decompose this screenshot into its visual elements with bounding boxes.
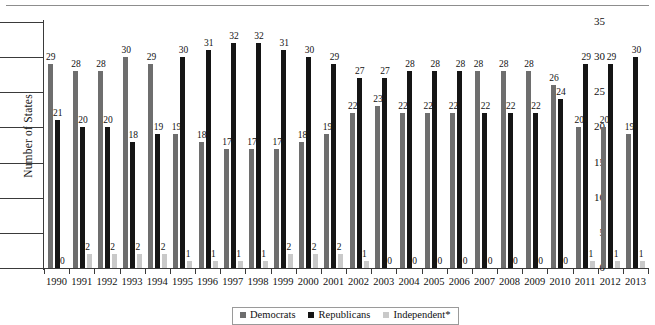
bar-group: 19292 (324, 22, 345, 268)
bar-value-label: 0 (438, 257, 443, 267)
bar-group: 26240 (551, 22, 572, 268)
bar-value-label: 0 (412, 257, 417, 267)
x-tick-mark (195, 268, 196, 274)
x-tick-mark (472, 268, 473, 274)
bar-group: 22280 (450, 22, 471, 268)
bar-dem (551, 85, 556, 268)
bar-rep (583, 64, 588, 268)
bar-ind (213, 261, 218, 268)
bar-rep (533, 113, 538, 268)
x-tick-mark (69, 268, 70, 274)
bar-rep (231, 43, 236, 268)
bar-group: 19301 (626, 22, 647, 268)
bar-value-label: 1 (614, 250, 619, 260)
bar-value-label: 22 (506, 102, 516, 112)
bar-dem (48, 64, 53, 268)
bar-rep (80, 127, 85, 268)
bar-value-label: 0 (513, 257, 518, 267)
bar-ind (615, 261, 620, 268)
bar-group: 28220 (526, 22, 547, 268)
bar-ind (162, 254, 167, 268)
bar-group: 23270 (375, 22, 396, 268)
bar-group: 28202 (73, 22, 94, 268)
bar-value-label: 29 (607, 53, 617, 63)
bar-group: 17312 (274, 22, 295, 268)
bar-dem (274, 149, 279, 268)
bar-dem (199, 142, 204, 269)
bar-dem (576, 127, 581, 268)
bar-rep (256, 43, 261, 268)
bar-rep (55, 120, 60, 268)
bar-value-label: 1 (261, 250, 266, 260)
y-tick-mark (0, 127, 44, 128)
bar-value-label: 26 (549, 74, 559, 84)
x-tick-mark (522, 268, 523, 274)
bar-group: 17321 (249, 22, 270, 268)
bar-group: 18302 (299, 22, 320, 268)
bar-rep (558, 99, 563, 268)
bar-value-label: 1 (186, 250, 191, 260)
bar-rep (432, 71, 437, 268)
bar-rep (180, 57, 185, 268)
bar-value-label: 0 (60, 257, 65, 267)
bar-value-label: 22 (481, 102, 491, 112)
bar-value-label: 2 (85, 243, 90, 253)
top-divider-rule (6, 5, 649, 6)
y-tick-mark (0, 198, 44, 199)
bar-value-label: 22 (531, 102, 541, 112)
y-tick-mark (0, 92, 44, 93)
bar-group: 28220 (501, 22, 522, 268)
bar-value-label: 28 (431, 60, 441, 70)
x-tick-mark (598, 268, 599, 274)
bar-dem (450, 113, 455, 268)
bar-rep (457, 71, 462, 268)
bar-value-label: 30 (122, 46, 132, 56)
bar-dem (173, 134, 178, 268)
bar-value-label: 24 (556, 88, 566, 98)
bar-dem (324, 134, 329, 268)
x-tick-mark (170, 268, 171, 274)
x-tick-mark (346, 268, 347, 274)
bar-value-label: 2 (136, 243, 141, 253)
bar-value-label: 32 (229, 32, 239, 42)
bar-value-label: 28 (456, 60, 466, 70)
bar-ind (87, 254, 92, 268)
x-tick-mark (271, 268, 272, 274)
bar-rep (130, 142, 135, 269)
bar-dem (299, 142, 304, 269)
bar-ind (112, 254, 117, 268)
bar-value-label: 1 (639, 250, 644, 260)
bar-ind (137, 254, 142, 268)
legend-swatch-dem (240, 312, 246, 318)
x-tick-mark (220, 268, 221, 274)
bar-dem (601, 127, 606, 268)
y-tick-mark (0, 22, 44, 23)
bar-group: 28220 (475, 22, 496, 268)
bar-group: 20291 (576, 22, 597, 268)
bar-ind (288, 254, 293, 268)
bar-rep (155, 134, 160, 268)
bar-dem (224, 149, 229, 268)
x-tick-mark (245, 268, 246, 274)
x-tick-mark (497, 268, 498, 274)
bar-chart-figure: Number of States 05101520253035 29210282… (0, 10, 655, 320)
bar-value-label: 32 (254, 32, 264, 42)
bar-group: 30182 (123, 22, 144, 268)
bar-dem (501, 71, 506, 268)
y-tick-mark (0, 268, 44, 269)
y-tick-mark (0, 57, 44, 58)
x-tick-mark (648, 268, 649, 274)
bar-value-label: 2 (110, 243, 115, 253)
legend-item: Independent* (383, 310, 450, 321)
legend-swatch-rep (308, 312, 314, 318)
bar-group: 20291 (601, 22, 622, 268)
bar-group: 22280 (400, 22, 421, 268)
legend-swatch-ind (383, 312, 389, 318)
plot-area: 2921028202282023018229192193011831117321… (44, 22, 648, 268)
y-axis-title: Number of States (22, 66, 34, 206)
bar-rep (508, 113, 513, 268)
bar-value-label: 30 (632, 46, 642, 56)
x-tick-label: 2013 (618, 276, 652, 287)
bar-ind (590, 261, 595, 268)
x-tick-mark (145, 268, 146, 274)
